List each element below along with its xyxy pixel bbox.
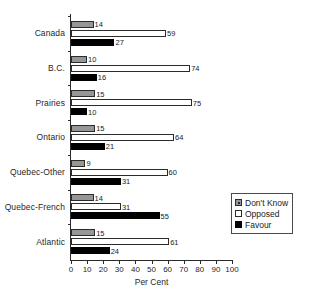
bar-value-label: 15	[96, 89, 104, 98]
bar-row: 55	[71, 212, 232, 219]
x-axis-tick	[87, 260, 88, 264]
bar: 31	[71, 203, 121, 210]
bar-row: 59	[71, 30, 232, 37]
x-axis-tick	[184, 260, 185, 264]
bar-row: 10	[71, 56, 232, 63]
legend-item-dontknow[interactable]: Don't Know	[235, 197, 288, 208]
legend-item-opposed[interactable]: Opposed	[235, 208, 288, 219]
bar-value-label: 74	[191, 64, 199, 73]
bar: 10	[71, 56, 87, 63]
bar-value-label: 60	[169, 168, 177, 177]
bar-row: 24	[71, 247, 232, 254]
x-axis-tick	[119, 260, 120, 264]
category-label: Atlantic	[36, 237, 65, 247]
bar-row: 31	[71, 178, 232, 185]
x-axis-tick	[216, 260, 217, 264]
bar-value-label: 61	[170, 237, 178, 246]
legend-label: Opposed	[245, 209, 280, 219]
x-axis-tick	[152, 260, 153, 264]
bar: 14	[71, 21, 94, 28]
category-label: Canada	[35, 28, 65, 38]
bar: 74	[71, 65, 190, 72]
y-axis-tick	[68, 224, 71, 225]
y-axis-tick	[68, 190, 71, 191]
x-axis-tick-label: 70	[179, 265, 188, 274]
bar: 10	[71, 108, 87, 115]
bar-row: 64	[71, 134, 232, 141]
x-axis-tick	[200, 260, 201, 264]
y-axis-tick	[68, 120, 71, 121]
legend-item-favour[interactable]: Favour	[235, 219, 288, 230]
x-axis-tick-label: 50	[147, 265, 156, 274]
bar: 15	[71, 229, 95, 236]
bar: 24	[71, 247, 110, 254]
y-axis-tick	[68, 51, 71, 52]
bar-value-label: 15	[96, 124, 104, 133]
bar-row: 61	[71, 238, 232, 245]
category-label: Prairies	[35, 98, 65, 108]
bar-value-label: 9	[86, 159, 90, 168]
bar: 31	[71, 178, 121, 185]
bar: 64	[71, 134, 174, 141]
y-axis-tick	[68, 85, 71, 86]
bar-row: 27	[71, 39, 232, 46]
bar-row: 14	[71, 21, 232, 28]
category-label: Quebec-French	[5, 202, 65, 212]
bar-row: 10	[71, 108, 232, 115]
bar: 27	[71, 39, 114, 46]
bar: 16	[71, 74, 97, 81]
bar: 9	[71, 160, 85, 167]
bar-group: Quebec-French143155	[71, 190, 232, 225]
x-axis-tick-label: 30	[115, 265, 124, 274]
bar-value-label: 21	[106, 142, 114, 151]
x-axis-tick-label: 20	[99, 265, 108, 274]
plot-area: Canada145927B.C.107416Prairies157510Onta…	[71, 16, 232, 259]
bar-value-label: 59	[167, 29, 175, 38]
bar-value-label: 75	[193, 98, 201, 107]
category-label: Ontario	[36, 132, 65, 142]
x-axis-tick-label: 10	[83, 265, 92, 274]
category-label: Quebec-Other	[10, 167, 65, 177]
x-axis-tick-label: 60	[163, 265, 172, 274]
bar-row: 60	[71, 169, 232, 176]
bar-group: Quebec-Other96031	[71, 155, 232, 190]
x-axis-tick-label: 100	[225, 265, 238, 274]
bar-value-label: 10	[88, 107, 96, 116]
bar-value-label: 31	[122, 177, 130, 186]
bar: 60	[71, 169, 168, 176]
bar-group: Prairies157510	[71, 85, 232, 120]
legend-label: Favour	[245, 220, 271, 230]
x-axis-tick	[135, 260, 136, 264]
chart-legend: Don't KnowOpposedFavour	[231, 193, 293, 234]
bar-group: Atlantic156124	[71, 224, 232, 259]
bar-value-label: 16	[98, 73, 106, 82]
bar-group: B.C.107416	[71, 51, 232, 86]
bar: 61	[71, 238, 169, 245]
bar-row: 75	[71, 99, 232, 106]
bar-row: 16	[71, 74, 232, 81]
bar-row: 9	[71, 160, 232, 167]
bar: 55	[71, 212, 160, 219]
bar: 75	[71, 99, 192, 106]
bar: 15	[71, 125, 95, 132]
bar-row: 15	[71, 125, 232, 132]
bar-value-label: 24	[111, 246, 119, 255]
y-axis-tick	[68, 155, 71, 156]
bar-value-label: 14	[95, 193, 103, 202]
x-axis-tick	[232, 260, 233, 264]
x-axis-tick	[103, 260, 104, 264]
x-axis-tick-label: 90	[211, 265, 220, 274]
opposed-swatch-icon	[235, 210, 242, 217]
x-axis-tick-label: 0	[69, 265, 73, 274]
legend-label: Don't Know	[245, 198, 288, 208]
bar-value-label: 64	[175, 133, 183, 142]
bar: 21	[71, 143, 105, 150]
bar-group: Canada145927	[71, 16, 232, 51]
bar-row: 21	[71, 143, 232, 150]
bar-chart: Canada145927B.C.107416Prairies157510Onta…	[0, 0, 317, 295]
bar: 14	[71, 194, 94, 201]
x-axis-tick-label: 40	[131, 265, 140, 274]
category-label: B.C.	[48, 63, 65, 73]
bar-value-label: 10	[88, 55, 96, 64]
bar-value-label: 27	[115, 38, 123, 47]
